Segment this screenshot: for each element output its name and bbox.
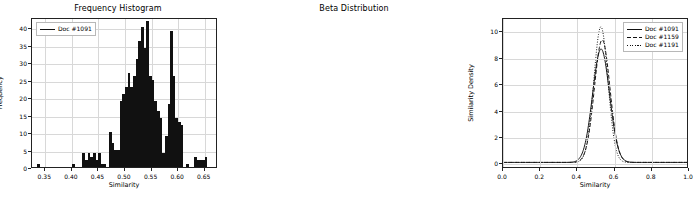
legend-line-solid-icon	[627, 26, 642, 33]
y-tick-label: 2	[476, 133, 498, 140]
y-tick-label: 10	[476, 28, 498, 35]
y-tick-label: 5	[5, 147, 27, 154]
y-tick-label: 0	[476, 160, 498, 167]
y-tick-mark	[28, 133, 31, 134]
grid-line-vertical	[577, 19, 578, 167]
histogram-bar	[104, 164, 107, 167]
grid-line-horizontal	[32, 47, 216, 48]
grid-line-horizontal	[32, 82, 216, 83]
histogram-bar	[205, 157, 208, 167]
y-tick-mark	[28, 98, 31, 99]
y-tick-mark	[499, 84, 502, 85]
legend-item: Doc #1091	[627, 25, 679, 33]
panel-frequency-histogram: Frequency Histogram Frequency Similarity…	[0, 0, 236, 199]
x-tick-label: 0.40	[64, 173, 77, 180]
legend-label: Doc #1191	[645, 41, 679, 49]
histogram-bar	[181, 125, 184, 167]
x-tick-mark	[502, 168, 503, 171]
y-tick-label: 4	[476, 107, 498, 114]
legend-item: Doc #1091	[40, 25, 92, 33]
x-tick-mark	[614, 168, 615, 171]
x-tick-label: 0.35	[38, 173, 51, 180]
grid-line-horizontal	[503, 138, 687, 139]
x-tick-label: 0.6	[609, 173, 619, 180]
legend-label: Doc #1159	[645, 33, 679, 41]
legend-item: Doc #1159	[627, 33, 679, 41]
x-tick-mark	[576, 168, 577, 171]
y-tick-mark	[28, 46, 31, 47]
y-axis-label-histogram: Frequency	[0, 76, 4, 110]
x-tick-mark	[539, 168, 540, 171]
y-tick-mark	[499, 58, 502, 59]
grid-line-vertical	[98, 19, 99, 167]
legend-histogram: Doc #1091	[36, 22, 96, 36]
y-tick-label: 30	[5, 60, 27, 67]
chart-title-beta: Beta Distribution	[236, 4, 472, 13]
x-tick-label: 0.60	[170, 173, 183, 180]
grid-line-horizontal	[503, 112, 687, 113]
grid-line-horizontal	[503, 85, 687, 86]
y-tick-mark	[499, 31, 502, 32]
grid-line-horizontal	[503, 164, 687, 165]
histogram-bar	[37, 164, 40, 167]
legend-line-dashed-icon	[627, 34, 642, 41]
x-tick-label: 0.2	[534, 173, 544, 180]
histogram-bar	[72, 164, 75, 167]
x-tick-label: 1.0	[683, 173, 693, 180]
legend-line-solid-icon	[40, 26, 55, 33]
x-tick-mark	[71, 168, 72, 171]
grid-line-horizontal	[32, 64, 216, 65]
legend-beta: Doc #1091Doc #1159Doc #1191	[623, 22, 683, 52]
y-tick-label: 25	[5, 77, 27, 84]
y-tick-mark	[499, 137, 502, 138]
legend-item: Doc #1191	[627, 41, 679, 49]
y-tick-label: 0	[5, 165, 27, 172]
y-tick-label: 8	[476, 54, 498, 61]
x-tick-mark	[124, 168, 125, 171]
x-tick-mark	[151, 168, 152, 171]
y-tick-mark	[28, 116, 31, 117]
y-tick-mark	[28, 28, 31, 29]
y-axis-label-beta: Similarity Density	[467, 64, 475, 122]
y-tick-mark	[28, 63, 31, 64]
x-tick-label: 0.8	[646, 173, 656, 180]
grid-line-vertical	[205, 19, 206, 167]
y-tick-mark	[28, 168, 31, 169]
legend-label: Doc #1091	[58, 25, 92, 33]
x-tick-label: 0.45	[91, 173, 104, 180]
y-tick-mark	[28, 81, 31, 82]
y-tick-mark	[499, 111, 502, 112]
histogram-bar	[186, 164, 189, 167]
x-tick-label: 0.65	[197, 173, 210, 180]
legend-line-dotted-icon	[627, 42, 642, 49]
x-tick-label: 0.55	[144, 173, 157, 180]
grid-line-horizontal	[503, 59, 687, 60]
x-axis-label-histogram: Similarity	[109, 181, 140, 189]
x-tick-mark	[177, 168, 178, 171]
x-tick-mark	[44, 168, 45, 171]
y-tick-label: 20	[5, 95, 27, 102]
x-axis-label-beta: Similarity	[580, 181, 611, 189]
grid-line-vertical	[72, 19, 73, 167]
y-tick-mark	[28, 151, 31, 152]
y-tick-label: 10	[5, 130, 27, 137]
x-tick-mark	[688, 168, 689, 171]
y-tick-label: 35	[5, 42, 27, 49]
legend-label: Doc #1091	[645, 25, 679, 33]
panel-beta-distribution: Beta Distribution Similarity Density Sim…	[236, 0, 472, 199]
x-tick-mark	[651, 168, 652, 171]
y-tick-label: 15	[5, 112, 27, 119]
grid-line-vertical	[540, 19, 541, 167]
plot-area-histogram	[31, 18, 217, 168]
x-tick-mark	[204, 168, 205, 171]
x-tick-label: 0.0	[497, 173, 507, 180]
x-tick-label: 0.50	[117, 173, 130, 180]
y-tick-label: 6	[476, 81, 498, 88]
y-tick-mark	[499, 163, 502, 164]
y-tick-label: 40	[5, 25, 27, 32]
x-tick-mark	[97, 168, 98, 171]
grid-line-vertical	[503, 19, 504, 167]
density-curve-solid	[503, 49, 687, 162]
grid-line-vertical	[45, 19, 46, 167]
